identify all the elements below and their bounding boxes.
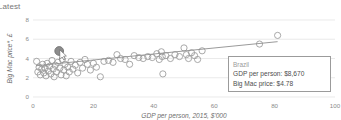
tooltip-gdp-row: GDP per person: $8,670 xyxy=(233,69,326,79)
latest-label: Latest xyxy=(0,2,20,11)
svg-text:60: 60 xyxy=(211,102,218,109)
x-axis-title: GDP per person, 2015, $'000 xyxy=(141,112,227,120)
tooltip-title: Brazil xyxy=(233,60,326,69)
svg-text:6: 6 xyxy=(26,35,30,42)
y-axis-title: Big Mac price*, £ xyxy=(6,33,14,83)
svg-text:8: 8 xyxy=(26,16,30,23)
svg-text:2: 2 xyxy=(26,74,30,81)
chart-screenshot: Latest 02468 020406080100 Big Mac price*… xyxy=(0,0,341,120)
svg-text:80: 80 xyxy=(271,102,278,109)
svg-text:20: 20 xyxy=(90,102,97,109)
y-tick-labels: 02468 xyxy=(26,16,30,100)
svg-text:0: 0 xyxy=(26,93,30,100)
svg-text:100: 100 xyxy=(330,102,341,109)
tooltip-brazil: Brazil GDP per person: $8,670 Big Mac pr… xyxy=(228,56,331,92)
svg-text:40: 40 xyxy=(150,102,157,109)
tooltip-price-row: Big Mac price: $4.78 xyxy=(233,79,326,89)
svg-text:4: 4 xyxy=(26,55,30,62)
svg-text:0: 0 xyxy=(31,102,35,109)
x-tick-labels: 020406080100 xyxy=(31,102,340,109)
